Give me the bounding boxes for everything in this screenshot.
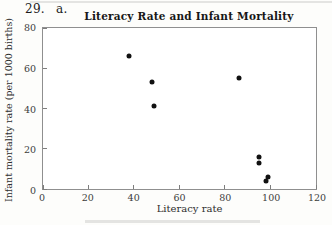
data-point (257, 154, 262, 159)
data-point (127, 54, 132, 59)
x-tick-label: 60 (173, 192, 185, 203)
data-point (236, 76, 241, 81)
x-tick-mark (179, 185, 180, 189)
x-tick-label: 120 (308, 192, 326, 203)
y-tick-mark (43, 148, 47, 149)
exercise-number: 29. (25, 2, 45, 16)
y-tick-label: 40 (24, 103, 36, 114)
x-tick-mark (270, 185, 271, 189)
chart-title: Literacy Rate and Infant Mortality (44, 10, 332, 22)
y-tick-mark (43, 68, 47, 69)
page: { "page": { "exercise_number": "29.", "p… (0, 0, 332, 225)
data-point (150, 80, 155, 85)
x-tick-label: 100 (262, 192, 280, 203)
y-tick-label: 0 (30, 185, 36, 196)
data-point (257, 160, 262, 165)
x-axis-title: Literacy rate (52, 203, 327, 214)
scan-artifact-top (30, 1, 332, 3)
y-tick-mark (43, 108, 47, 109)
y-tick-label: 80 (24, 22, 36, 33)
x-tick-label: 40 (128, 192, 140, 203)
y-tick-label: 20 (24, 144, 36, 155)
data-point (263, 178, 268, 183)
y-axis-tick-labels: 020406080 (16, 27, 38, 190)
x-tick-mark (133, 185, 134, 189)
x-tick-mark (316, 185, 317, 189)
scan-artifact-bottom (85, 220, 260, 223)
x-tick-label: 20 (82, 192, 94, 203)
y-tick-label: 60 (24, 62, 36, 73)
data-point (152, 104, 157, 109)
plot-area (42, 27, 317, 190)
y-tick-mark (43, 189, 47, 190)
x-tick-mark (224, 185, 225, 189)
x-tick-label: 80 (219, 192, 231, 203)
x-tick-mark (88, 185, 89, 189)
y-tick-mark (43, 28, 47, 29)
y-axis-title: Infant mortality rate (per 1000 births) (3, 15, 15, 205)
x-tick-label: 0 (39, 192, 45, 203)
